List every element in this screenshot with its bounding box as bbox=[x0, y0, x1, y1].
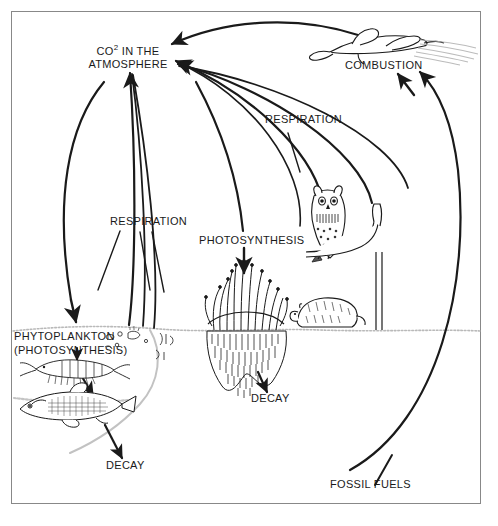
label-decay-land: DECAY bbox=[251, 392, 290, 405]
label-decay-water: DECAY bbox=[106, 459, 145, 472]
label-atmosphere-line1: CO2 IN THE bbox=[97, 45, 160, 57]
label-photosynthesis: PHOTOSYNTHESIS bbox=[199, 234, 304, 247]
label-respiration-left: RESPIRATION bbox=[110, 215, 187, 228]
label-phytoplankton-line2: (PHOTOSYNTHESIS) bbox=[14, 344, 127, 356]
label-atmosphere-line2: ATMOSPHERE bbox=[88, 58, 167, 70]
label-combustion: COMBUSTION bbox=[345, 59, 423, 72]
label-atmosphere: CO2 IN THE ATMOSPHERE bbox=[73, 41, 183, 72]
label-phytoplankton-line1: PHYTOPLANKTON bbox=[14, 330, 115, 342]
label-phytoplankton: PHYTOPLANKTON (PHOTOSYNTHESIS) bbox=[14, 330, 134, 357]
carbon-cycle-diagram: CO2 IN THE ATMOSPHERE COMBUSTION RESPIRA… bbox=[0, 0, 498, 526]
label-fossil-fuels: FOSSIL FUELS bbox=[330, 478, 411, 491]
diagram-frame bbox=[11, 11, 481, 504]
label-respiration-right: RESPIRATION bbox=[265, 113, 342, 126]
